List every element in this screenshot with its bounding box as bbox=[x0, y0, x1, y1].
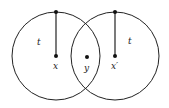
left-top-point bbox=[54, 10, 58, 14]
point-y bbox=[85, 55, 89, 59]
point-x bbox=[54, 54, 58, 58]
left-radius-label: t bbox=[37, 37, 41, 47]
diagram-canvas: t t x y x′ bbox=[0, 0, 169, 108]
label-y: y bbox=[83, 63, 90, 73]
right-top-point bbox=[113, 10, 117, 14]
right-radius-label: t bbox=[128, 36, 132, 46]
label-x-prime: x′ bbox=[111, 61, 118, 71]
label-x: x bbox=[53, 61, 58, 71]
point-x-prime bbox=[113, 54, 117, 58]
